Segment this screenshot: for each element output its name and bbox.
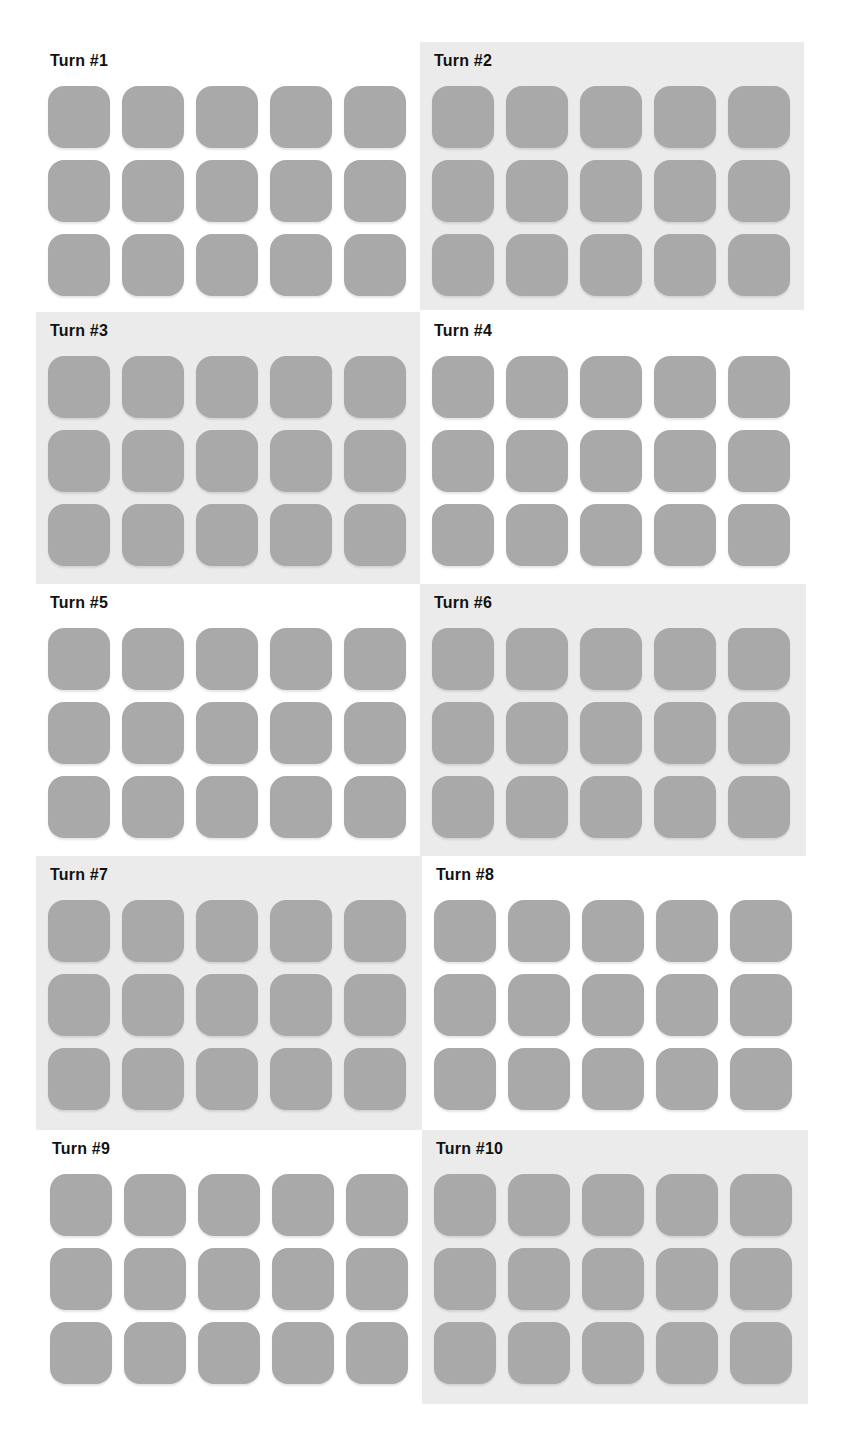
tile-r2-c3[interactable] (582, 974, 644, 1036)
tile-r2-c3[interactable] (580, 160, 642, 222)
tile-r1-c2[interactable] (506, 356, 568, 418)
tile-r2-c4[interactable] (654, 702, 716, 764)
tile-r2-c3[interactable] (582, 1248, 644, 1310)
tile-r2-c5[interactable] (344, 160, 406, 222)
tile-r2-c4[interactable] (272, 1248, 334, 1310)
tile-r3-c3[interactable] (196, 234, 258, 296)
tile-r2-c2[interactable] (508, 974, 570, 1036)
tile-r1-c1[interactable] (432, 356, 494, 418)
tile-r2-c2[interactable] (506, 702, 568, 764)
tile-r3-c2[interactable] (122, 234, 184, 296)
tile-r3-c1[interactable] (432, 776, 494, 838)
tile-r1-c4[interactable] (654, 86, 716, 148)
tile-r1-c4[interactable] (272, 1174, 334, 1236)
tile-r2-c5[interactable] (730, 1248, 792, 1310)
tile-r2-c1[interactable] (432, 160, 494, 222)
tile-r3-c1[interactable] (434, 1048, 496, 1110)
tile-r3-c4[interactable] (654, 234, 716, 296)
tile-r2-c5[interactable] (346, 1248, 408, 1310)
tile-r3-c2[interactable] (122, 504, 184, 566)
tile-r2-c5[interactable] (344, 430, 406, 492)
tile-r2-c3[interactable] (198, 1248, 260, 1310)
tile-r1-c4[interactable] (656, 900, 718, 962)
tile-r2-c1[interactable] (50, 1248, 112, 1310)
tile-r3-c3[interactable] (582, 1048, 644, 1110)
tile-r3-c5[interactable] (730, 1322, 792, 1384)
tile-r3-c5[interactable] (730, 1048, 792, 1110)
tile-r1-c2[interactable] (124, 1174, 186, 1236)
tile-r2-c4[interactable] (270, 160, 332, 222)
tile-r1-c5[interactable] (344, 628, 406, 690)
tile-r1-c5[interactable] (730, 1174, 792, 1236)
tile-r1-c1[interactable] (48, 900, 110, 962)
tile-r2-c5[interactable] (730, 974, 792, 1036)
tile-r1-c1[interactable] (48, 628, 110, 690)
tile-r2-c1[interactable] (432, 702, 494, 764)
tile-r3-c3[interactable] (198, 1322, 260, 1384)
tile-r2-c1[interactable] (48, 430, 110, 492)
tile-r2-c3[interactable] (580, 430, 642, 492)
tile-r3-c1[interactable] (48, 776, 110, 838)
tile-r2-c5[interactable] (728, 160, 790, 222)
tile-r3-c5[interactable] (728, 776, 790, 838)
tile-r2-c1[interactable] (48, 160, 110, 222)
tile-r1-c2[interactable] (506, 628, 568, 690)
tile-r3-c5[interactable] (346, 1322, 408, 1384)
tile-r2-c4[interactable] (270, 974, 332, 1036)
tile-r3-c1[interactable] (432, 504, 494, 566)
tile-r1-c5[interactable] (346, 1174, 408, 1236)
tile-r3-c4[interactable] (270, 776, 332, 838)
tile-r1-c4[interactable] (654, 628, 716, 690)
tile-r2-c5[interactable] (728, 430, 790, 492)
tile-r2-c2[interactable] (122, 160, 184, 222)
tile-r2-c2[interactable] (508, 1248, 570, 1310)
tile-r1-c2[interactable] (122, 86, 184, 148)
tile-r2-c4[interactable] (656, 974, 718, 1036)
tile-r3-c4[interactable] (656, 1322, 718, 1384)
tile-r3-c1[interactable] (50, 1322, 112, 1384)
tile-r2-c2[interactable] (506, 430, 568, 492)
tile-r3-c5[interactable] (344, 504, 406, 566)
tile-r3-c1[interactable] (48, 1048, 110, 1110)
tile-r3-c3[interactable] (196, 1048, 258, 1110)
tile-r1-c5[interactable] (728, 86, 790, 148)
tile-r2-c5[interactable] (344, 974, 406, 1036)
tile-r1-c5[interactable] (728, 628, 790, 690)
tile-r1-c3[interactable] (196, 356, 258, 418)
tile-r3-c2[interactable] (122, 776, 184, 838)
tile-r3-c2[interactable] (506, 234, 568, 296)
tile-r1-c3[interactable] (196, 628, 258, 690)
tile-r3-c4[interactable] (272, 1322, 334, 1384)
tile-r2-c2[interactable] (122, 974, 184, 1036)
tile-r2-c2[interactable] (506, 160, 568, 222)
tile-r3-c3[interactable] (196, 504, 258, 566)
tile-r3-c5[interactable] (728, 234, 790, 296)
tile-r1-c3[interactable] (580, 356, 642, 418)
tile-r2-c3[interactable] (196, 974, 258, 1036)
tile-r1-c3[interactable] (198, 1174, 260, 1236)
tile-r3-c1[interactable] (432, 234, 494, 296)
tile-r3-c4[interactable] (270, 504, 332, 566)
tile-r1-c1[interactable] (434, 1174, 496, 1236)
tile-r3-c2[interactable] (508, 1048, 570, 1110)
tile-r2-c3[interactable] (196, 702, 258, 764)
tile-r3-c5[interactable] (344, 1048, 406, 1110)
tile-r3-c4[interactable] (654, 504, 716, 566)
tile-r1-c4[interactable] (270, 628, 332, 690)
tile-r1-c1[interactable] (434, 900, 496, 962)
tile-r3-c3[interactable] (580, 776, 642, 838)
tile-r2-c4[interactable] (654, 160, 716, 222)
tile-r2-c1[interactable] (434, 1248, 496, 1310)
tile-r1-c3[interactable] (582, 900, 644, 962)
tile-r1-c5[interactable] (344, 86, 406, 148)
tile-r1-c5[interactable] (344, 356, 406, 418)
tile-r3-c2[interactable] (122, 1048, 184, 1110)
tile-r1-c5[interactable] (730, 900, 792, 962)
tile-r2-c3[interactable] (580, 702, 642, 764)
tile-r3-c4[interactable] (270, 1048, 332, 1110)
tile-r1-c1[interactable] (432, 628, 494, 690)
tile-r1-c3[interactable] (580, 86, 642, 148)
tile-r2-c1[interactable] (434, 974, 496, 1036)
tile-r2-c3[interactable] (196, 430, 258, 492)
tile-r2-c4[interactable] (654, 430, 716, 492)
